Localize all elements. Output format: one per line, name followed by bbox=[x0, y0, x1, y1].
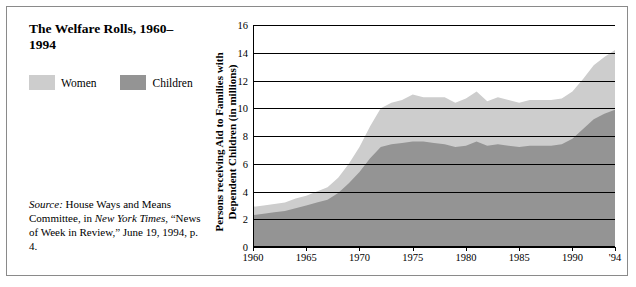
y-axis-tick-label: 8 bbox=[243, 131, 248, 142]
x-axis-tick-label: 1965 bbox=[296, 252, 317, 263]
source-italic-1: New York Times bbox=[95, 212, 166, 224]
legend-swatch-children bbox=[120, 75, 146, 90]
chart-legend: Women Children bbox=[29, 75, 199, 90]
plot-region: 0246810121416196019651970197519801985199… bbox=[253, 25, 615, 247]
source-label: Source: bbox=[29, 198, 63, 210]
x-axis-tick-mark bbox=[359, 247, 360, 251]
x-axis-line bbox=[253, 246, 615, 247]
y-axis-tick-label: 12 bbox=[238, 75, 249, 86]
legend-item-women: Women bbox=[29, 75, 96, 90]
gridline-overlay bbox=[253, 219, 615, 220]
x-axis-tick-label: 1975 bbox=[402, 252, 423, 263]
figure-page: The Welfare Rolls, 1960–1994 Women Child… bbox=[0, 0, 636, 287]
x-axis-tick-label: 1960 bbox=[243, 252, 264, 263]
y-axis-tick-label: 14 bbox=[238, 47, 249, 58]
plot-inner: 0246810121416196019651970197519801985199… bbox=[253, 25, 615, 247]
gridline-overlay bbox=[253, 81, 615, 82]
x-axis-tick-label: 1990 bbox=[562, 252, 583, 263]
y-axis-tick-label: 10 bbox=[238, 103, 249, 114]
y-axis-line bbox=[253, 25, 254, 247]
x-axis-tick-mark bbox=[466, 247, 467, 251]
x-axis-tick-mark bbox=[572, 247, 573, 251]
figure-frame: The Welfare Rolls, 1960–1994 Women Child… bbox=[6, 6, 628, 276]
y-axis-tick-label: 0 bbox=[243, 242, 248, 253]
x-axis-tick-label: '94 bbox=[609, 252, 621, 263]
page-title: The Welfare Rolls, 1960–1994 bbox=[29, 21, 199, 53]
title-and-legend-block: The Welfare Rolls, 1960–1994 Women Child… bbox=[29, 21, 199, 90]
x-axis-tick-label: 1980 bbox=[455, 252, 476, 263]
gridline-overlay bbox=[253, 192, 615, 193]
x-axis-tick-mark bbox=[519, 247, 520, 251]
legend-label-women: Women bbox=[61, 77, 96, 89]
legend-label-children: Children bbox=[152, 77, 192, 89]
x-axis-tick-mark bbox=[253, 247, 254, 251]
y-axis-label-text: Persons receiving Aid to Families with D… bbox=[213, 27, 239, 257]
x-axis-tick-mark bbox=[413, 247, 414, 251]
x-axis-tick-label: 1970 bbox=[349, 252, 370, 263]
gridline-overlay bbox=[253, 53, 615, 54]
gridline-overlay bbox=[253, 164, 615, 165]
y-axis-tick-label: 4 bbox=[243, 186, 248, 197]
y-axis-tick-label: 2 bbox=[243, 214, 248, 225]
x-axis-tick-label: 1985 bbox=[509, 252, 530, 263]
chart-area: Persons receiving Aid to Families with D… bbox=[207, 21, 623, 271]
source-note: Source: House Ways and Means Committee, … bbox=[29, 197, 204, 253]
gridline-overlay bbox=[253, 136, 615, 137]
legend-swatch-women bbox=[29, 75, 55, 90]
gridline-overlay bbox=[253, 25, 615, 26]
y-axis-tick-label: 16 bbox=[238, 20, 249, 31]
gridline-overlay bbox=[253, 247, 615, 248]
x-axis-tick-mark bbox=[306, 247, 307, 251]
y-axis-tick-label: 6 bbox=[243, 158, 248, 169]
y-axis-label: Persons receiving Aid to Families with D… bbox=[207, 25, 229, 257]
legend-item-children: Children bbox=[120, 75, 192, 90]
x-axis-tick-mark bbox=[615, 247, 616, 251]
gridline-overlay bbox=[253, 108, 615, 109]
